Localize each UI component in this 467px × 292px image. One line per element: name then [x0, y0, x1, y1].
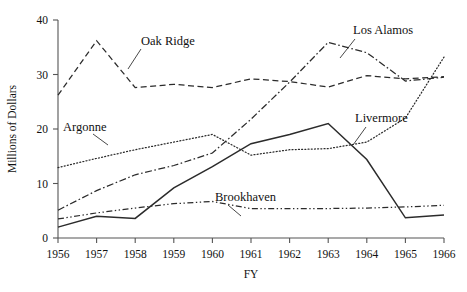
series-line-oak-ridge: [58, 41, 444, 96]
x-tick-group: 1956195719581959196019611962196319641965…: [47, 238, 456, 260]
leader-line: [93, 134, 108, 145]
series-label-los-alamos: Los Alamos: [353, 23, 413, 37]
y-tick-label: 40: [37, 14, 49, 26]
x-tick-label: 1965: [394, 248, 417, 260]
x-tick-label: 1966: [433, 248, 456, 260]
series-label-argonne: Argonne: [63, 120, 107, 134]
leader-line: [353, 127, 366, 145]
x-tick-label: 1961: [240, 248, 263, 260]
y-tick-label: 0: [42, 232, 48, 244]
y-tick-label: 10: [37, 178, 49, 190]
series-label-oak-ridge: Oak Ridge: [141, 34, 195, 48]
y-axis-title: Millions of Dollars: [6, 84, 18, 173]
axes: [58, 20, 444, 238]
series-label-livermore: Livermore: [355, 111, 408, 125]
series-line-brookhaven: [58, 201, 444, 218]
x-tick-label: 1957: [85, 248, 108, 260]
series-line-los-alamos: [58, 42, 444, 210]
series-label-brookhaven: Brookhaven: [215, 190, 277, 204]
line-chart: Millions of Dollars 010203040 1956195719…: [0, 0, 467, 292]
y-tick-label: 30: [37, 69, 49, 81]
x-tick-label: 1963: [317, 248, 340, 260]
series-label-group: Oak RidgeArgonneLos AlamosLivermoreBrook…: [63, 23, 413, 216]
y-tick-label: 20: [37, 123, 49, 135]
x-tick-label: 1964: [355, 248, 378, 260]
x-tick-label: 1960: [201, 248, 224, 260]
x-tick-label: 1959: [162, 248, 185, 260]
leader-line: [128, 49, 141, 69]
x-tick-label: 1958: [124, 248, 147, 260]
series-line-livermore: [58, 124, 444, 228]
x-axis-title: FY: [244, 268, 259, 280]
x-tick-label: 1962: [278, 248, 301, 260]
y-tick-group: 010203040: [37, 14, 59, 244]
x-tick-label: 1956: [47, 248, 70, 260]
chart-container: Millions of Dollars 010203040 1956195719…: [0, 0, 467, 292]
